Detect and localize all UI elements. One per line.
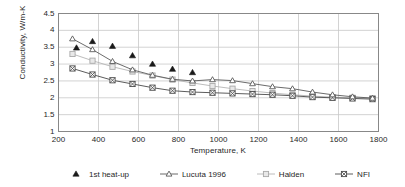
x-tick-label: 400 <box>82 135 116 144</box>
legend-label: 1st heat-up <box>89 170 129 179</box>
x-tick-label: 800 <box>162 135 196 144</box>
light-square-icon <box>256 169 276 179</box>
x-tick-label: 1200 <box>242 135 276 144</box>
y-tick-label: 3 <box>29 59 55 68</box>
y-tick-label: 3.5 <box>29 42 55 51</box>
y-tick-label: 4.5 <box>29 9 55 18</box>
x-tick-label: 1800 <box>362 135 396 144</box>
legend-item-nfi: NFI <box>334 169 370 179</box>
series-nfi <box>70 66 375 102</box>
x-tick-label: 1600 <box>322 135 356 144</box>
gridlines <box>59 14 379 132</box>
plot-area <box>0 0 405 187</box>
crossed-square-icon <box>334 169 354 179</box>
legend-item-1st-heat-up: 1st heat-up <box>66 169 129 179</box>
legend-item-halden: Halden <box>256 169 304 179</box>
data-series-layer <box>70 36 376 102</box>
conductivity-chart-figure: Conductivity, W/m-K Temperature, K 11.52… <box>0 0 405 187</box>
legend-label: NFI <box>357 170 370 179</box>
legend-item-lucuta-1996: Lucuta 1996 <box>159 169 226 179</box>
x-tick-label: 1000 <box>202 135 236 144</box>
x-tick-label: 1400 <box>282 135 316 144</box>
y-tick-label: 1.5 <box>29 110 55 119</box>
y-tick-label: 2 <box>29 93 55 102</box>
legend-label: Halden <box>279 170 304 179</box>
open-triangle-icon <box>159 169 179 179</box>
legend-label: Lucuta 1996 <box>182 170 226 179</box>
x-tick-label: 200 <box>42 135 76 144</box>
y-tick-label: 2.5 <box>29 76 55 85</box>
chart-legend: 1st heat-upLucuta 1996HaldenNFI <box>58 166 378 182</box>
y-tick-label: 4 <box>29 25 55 34</box>
filled-triangle-icon <box>66 169 86 179</box>
x-tick-label: 600 <box>122 135 156 144</box>
